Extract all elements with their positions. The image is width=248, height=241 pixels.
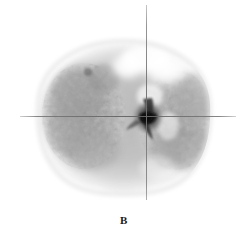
crosshair-horizontal-line[interactable]	[20, 116, 236, 117]
scan-viewport[interactable]	[0, 0, 248, 200]
figure-panel: B	[0, 0, 248, 241]
crosshair-vertical-line[interactable]	[146, 5, 147, 200]
axial-perfusion-scan-image	[0, 0, 248, 200]
panel-label: B	[0, 214, 248, 226]
